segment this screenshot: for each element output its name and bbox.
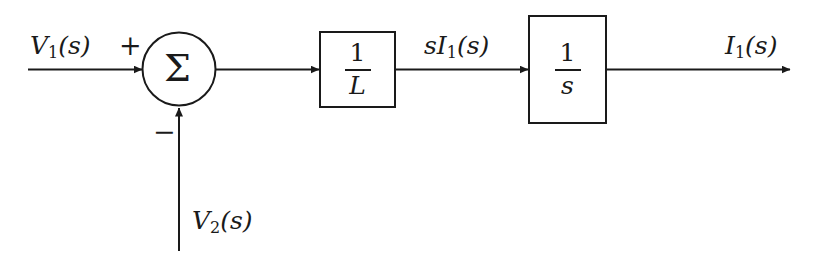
input-label-v1-tail: (s) <box>58 31 90 60</box>
input-label-v2-tail: (s) <box>220 206 252 235</box>
intermediate-label-lead: s <box>424 31 437 60</box>
input-label-v1-base: V <box>30 31 48 60</box>
input-label-v2-base: V <box>192 206 210 235</box>
intermediate-label-tail: (s) <box>457 31 489 60</box>
input-label-v2-sub: 2 <box>210 218 220 237</box>
input-label-v1: V1(s) <box>30 33 91 61</box>
output-label-i1-base: I <box>725 31 735 60</box>
gain-block-denominator: L <box>349 73 366 99</box>
integrator-block-numerator: 1 <box>560 40 576 66</box>
minus-sign: − <box>153 118 176 145</box>
output-label-i1-sub: 1 <box>735 43 745 62</box>
integrator-block-denominator: s <box>561 73 574 99</box>
intermediate-label-si1: sI1(s) <box>424 33 489 61</box>
integrator-block-expression: 1 s <box>529 16 606 123</box>
sigma-symbol: Σ <box>164 49 191 87</box>
intermediate-label-sub: 1 <box>447 43 457 62</box>
gain-block-expression: 1 L <box>320 32 395 107</box>
block-diagram: Σ V1(s) + − V2(s) 1 L sI1(s) 1 s I1(s) <box>0 0 830 259</box>
intermediate-label-base: I <box>437 31 447 60</box>
input-label-v2: V2(s) <box>192 208 253 236</box>
gain-block-numerator: 1 <box>350 40 366 66</box>
input-label-v1-sub: 1 <box>48 43 58 62</box>
plus-sign: + <box>119 32 142 59</box>
output-label-i1-tail: (s) <box>745 31 777 60</box>
output-label-i1: I1(s) <box>725 33 777 61</box>
